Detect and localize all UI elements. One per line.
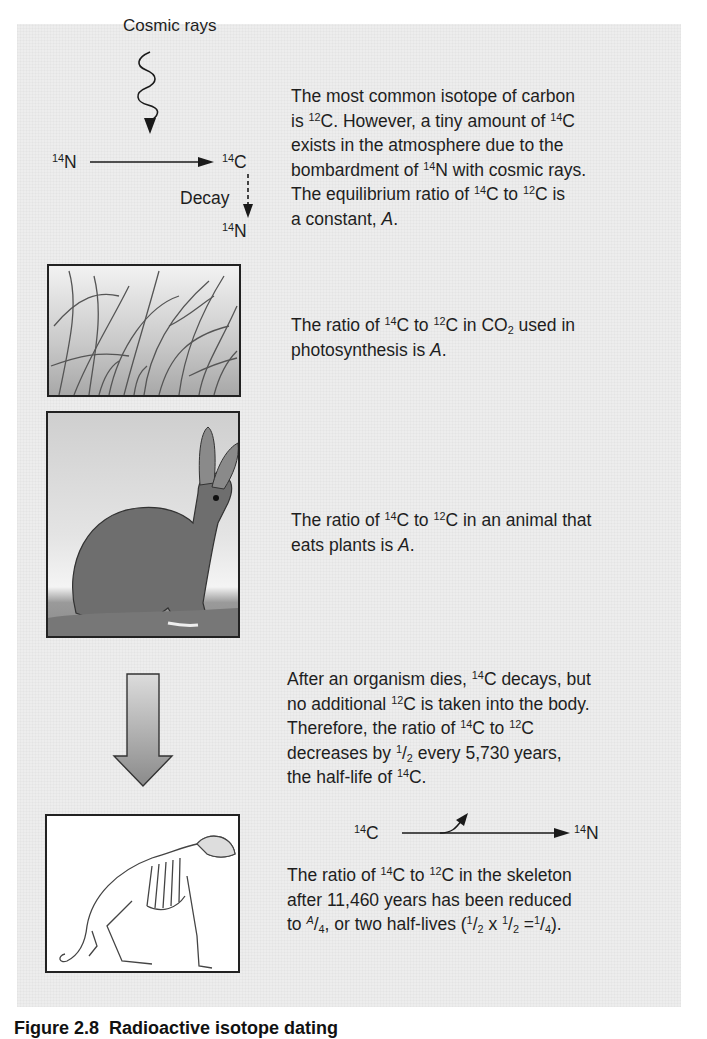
rabbit-icon — [48, 413, 238, 636]
figure-number: Figure 2.8 — [14, 1018, 99, 1038]
photosynthesis-description: The ratio of 14C to 12C in CO2 used in p… — [291, 313, 575, 362]
beta-decay-arrow-icon — [400, 812, 575, 842]
grass-blades-icon — [49, 266, 239, 395]
n14-reactant-label: 14N — [52, 152, 77, 173]
rabbit-skeleton-illustration — [45, 814, 240, 973]
grass-illustration — [47, 264, 241, 397]
skeleton-description: The ratio of 14C to 12C in the skeleton … — [287, 863, 572, 937]
figure-caption: Figure 2.8Radioactive isotope dating — [14, 1018, 338, 1039]
decay-dashed-arrow-icon — [241, 172, 255, 222]
cosmic-rays-label: Cosmic rays — [123, 16, 217, 36]
down-arrow-icon — [110, 672, 176, 788]
rabbit-illustration — [46, 411, 240, 638]
figure-title: Radioactive isotope dating — [109, 1018, 338, 1038]
skeleton-icon — [47, 816, 238, 971]
c14-product-label: 14C — [222, 152, 247, 173]
decay-description: After an organism dies, 14C decays, but … — [287, 667, 591, 790]
c14-decay-reactant-label: 14C — [354, 823, 379, 844]
animal-description: The ratio of 14C to 12C in an animal tha… — [291, 508, 591, 557]
decay-label: Decay — [180, 188, 230, 209]
reaction-arrow-icon — [88, 152, 218, 172]
atmosphere-description: The most common isotope of carbon is 12C… — [291, 84, 586, 231]
cosmic-ray-wavy-arrow-icon — [132, 48, 172, 148]
n14-decay-product-label-2: 14N — [574, 823, 599, 844]
n14-decay-product-label: 14N — [222, 221, 247, 242]
